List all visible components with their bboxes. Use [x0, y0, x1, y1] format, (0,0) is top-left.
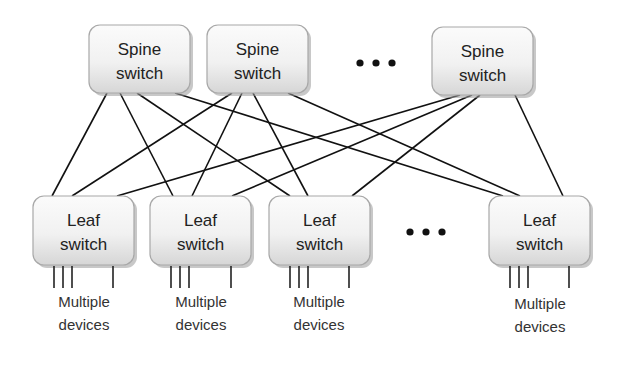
spine-switch: Spine switch	[89, 25, 193, 96]
link-spine-1-leaf-1	[52, 93, 107, 196]
link-spine-3-leaf-3	[352, 95, 480, 196]
leaf-label-line2: switch	[516, 235, 563, 254]
leaf-ellipsis-icon	[406, 228, 445, 235]
spine-label-line1: Spine	[236, 40, 279, 59]
link-spine-2-leaf-3	[253, 93, 308, 196]
spine-switch: Spine switch	[432, 27, 536, 98]
leaf-label-line1: Leaf	[184, 211, 217, 230]
devices-label-line1: Multiple	[514, 295, 566, 312]
device-links-leaf-3	[290, 266, 349, 288]
devices-label-line2: devices	[176, 316, 227, 333]
link-spine-2-leaf-4	[288, 93, 520, 196]
device-links-leaf-2	[171, 266, 231, 288]
leaf-label-line2: switch	[296, 235, 343, 254]
link-spine-3-leaf-2	[232, 95, 472, 196]
devices-label-line2: devices	[515, 318, 566, 335]
leaf-switch: Leaf switch	[269, 196, 373, 268]
devices-label-line1: Multiple	[58, 293, 110, 310]
link-spine-1-leaf-4	[175, 93, 503, 196]
devices-label-line1: Multiple	[293, 293, 345, 310]
leaf-label-line2: switch	[60, 235, 107, 254]
link-spine-3-leaf-4	[515, 95, 563, 196]
devices-label-line1: Multiple	[175, 293, 227, 310]
spine-label-line2: switch	[459, 66, 506, 85]
leaf-switch: Leaf switch	[489, 196, 593, 268]
leaf-switch: Leaf switch	[33, 196, 137, 268]
spine-switch: Spine switch	[207, 25, 311, 96]
leaf-label-line1: Leaf	[523, 211, 556, 230]
devices-label-line2: devices	[294, 316, 345, 333]
link-spine-2-leaf-2	[192, 93, 242, 196]
spine-label-line1: Spine	[461, 42, 504, 61]
spine-ellipsis-icon	[356, 59, 395, 66]
spine-label-line1: Spine	[118, 40, 161, 59]
spine-label-line2: switch	[234, 64, 281, 83]
devices-label-line2: devices	[59, 316, 110, 333]
spine-leaf-diagram: Spine switch Spine switch Spine switch L…	[0, 0, 622, 369]
leaf-label-line1: Leaf	[67, 211, 100, 230]
link-spine-3-leaf-1	[117, 95, 460, 196]
leaf-label-line2: switch	[177, 235, 224, 254]
link-spine-2-leaf-1	[72, 93, 232, 196]
spine-label-line2: switch	[116, 64, 163, 83]
device-links-leaf-4	[510, 266, 569, 288]
links-layer	[52, 93, 563, 196]
device-links-leaf-1	[54, 266, 113, 288]
leaf-switch: Leaf switch	[150, 196, 254, 268]
link-spine-1-leaf-2	[120, 93, 173, 196]
leaf-label-line1: Leaf	[303, 211, 336, 230]
